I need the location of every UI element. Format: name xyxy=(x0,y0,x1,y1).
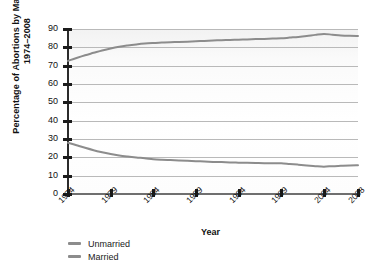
series-layer xyxy=(68,29,358,194)
y-axis-tick xyxy=(63,138,72,141)
chart-legend: UnmarriedMarried xyxy=(68,238,130,264)
y-axis-tick xyxy=(63,120,72,123)
y-axis-tick-label: 0 xyxy=(34,188,58,198)
y-axis-tick-label: 70 xyxy=(34,60,58,70)
legend-item-label: Unmarried xyxy=(88,239,130,249)
y-axis-tick xyxy=(63,156,72,159)
y-axis-tick-label: 40 xyxy=(34,115,58,125)
legend-item[interactable]: Married xyxy=(68,251,130,262)
series-line xyxy=(68,143,358,167)
y-axis-title-text: Percentage of Abortions by Marital Statu… xyxy=(11,0,33,134)
y-axis-tick-label: 30 xyxy=(34,133,58,143)
chart-figure: Percentage of Abortions by Marital Statu… xyxy=(0,0,385,267)
y-axis-tick xyxy=(63,65,72,68)
y-axis-tick-label: 80 xyxy=(34,41,58,51)
y-axis-tick-label: 50 xyxy=(34,96,58,106)
y-axis-tick-label: 20 xyxy=(34,151,58,161)
y-axis-tick xyxy=(63,101,72,104)
y-axis-title-line1: Percentage of Abortions by Marital Statu… xyxy=(11,0,21,134)
legend-item[interactable]: Unmarried xyxy=(68,238,130,249)
x-axis-title: Year xyxy=(0,227,385,237)
y-axis-title-line2: 1974–2008 xyxy=(22,18,32,64)
y-axis-tick xyxy=(63,83,72,86)
y-axis-title: Percentage of Abortions by Marital Statu… xyxy=(7,0,37,127)
series-line xyxy=(68,34,358,61)
legend-swatch-icon xyxy=(68,255,81,258)
y-axis-tick xyxy=(63,175,72,178)
y-axis-tick xyxy=(63,46,72,49)
y-axis-tick-label: 10 xyxy=(34,170,58,180)
legend-item-label: Married xyxy=(88,252,119,262)
y-axis-tick-label: 60 xyxy=(34,78,58,88)
y-axis-tick-label: 90 xyxy=(34,23,58,33)
legend-swatch-icon xyxy=(68,242,81,245)
y-axis-tick xyxy=(63,28,72,31)
